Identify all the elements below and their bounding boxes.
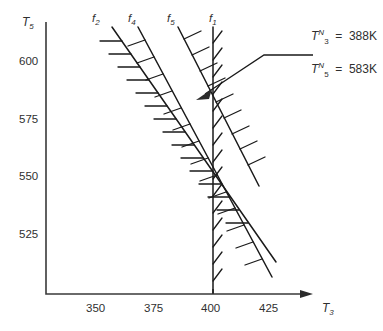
leader-path [205, 55, 313, 94]
constraint-line-f1 [213, 27, 222, 293]
x-tick-labels: 350 375 400 425 [86, 302, 278, 314]
curve-label-f5: f5 [167, 12, 175, 27]
chart-figure: 600 575 550 525 350 375 400 425 T5 T3 f2… [0, 0, 383, 331]
y-tick-labels: 600 575 550 525 [19, 55, 38, 240]
chart-canvas: 600 575 550 525 350 375 400 425 T5 T3 f2… [0, 0, 383, 331]
y-axis-title: T5 [22, 15, 34, 31]
curve-label-f2: f2 [92, 12, 100, 27]
y-tick-label: 575 [19, 113, 38, 125]
annotation-text-group: TN3 = 388K TN5 = 583K [311, 28, 377, 79]
axis-titles: T5 T3 [22, 15, 334, 317]
y-tick-label: 550 [19, 170, 38, 182]
constraint-path-f5 [178, 27, 259, 186]
constraint-line-f5 [178, 27, 265, 186]
x-tick-label: 400 [201, 302, 220, 314]
curve-label-f1: f1 [209, 12, 217, 27]
curve-label-f4: f4 [128, 12, 136, 27]
annotation-t3n: TN3 = 388K [311, 28, 377, 46]
y-tick-label: 600 [19, 55, 38, 67]
x-axis-arrow-icon [300, 290, 313, 298]
leader-arrow-icon [196, 89, 212, 100]
x-axis-title: T3 [322, 301, 334, 317]
constraint-path-f4 [138, 27, 272, 277]
x-tick-label: 375 [144, 302, 163, 314]
annotation-t5n: TN5 = 583K [311, 61, 377, 79]
curve-labels: f2 f4 f5 f1 [92, 12, 217, 27]
hatch-group-f2 [100, 41, 248, 223]
hatch-group-f5 [184, 31, 265, 165]
hatch-group-f1 [213, 31, 222, 281]
y-tick-label: 525 [19, 228, 38, 240]
x-tick-label: 425 [259, 302, 278, 314]
x-tick-label: 350 [86, 302, 105, 314]
